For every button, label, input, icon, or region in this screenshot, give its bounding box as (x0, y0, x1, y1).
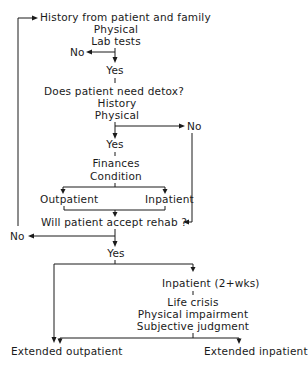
arrow-down-icon (237, 339, 242, 345)
criteria-condition: Condition (90, 170, 142, 182)
assessment-line-1: History from patient and family (40, 11, 211, 23)
extended-inpatient-label: Extended inpatient (204, 345, 308, 357)
treatment-decision-flowchart: History from patient and family Physical… (0, 0, 308, 371)
detox-outpatient-label: Outpatient (40, 193, 98, 205)
extended-care-split (58, 333, 242, 344)
detox-question-node: Does patient need detox? History Physica… (44, 85, 184, 121)
arrow-right-icon (32, 16, 38, 21)
criteria-life-crisis: Life crisis (167, 296, 218, 308)
rehab-yes-label: Yes (106, 247, 125, 259)
detox-inpatient-label: Inpatient (145, 193, 194, 205)
assessment-node: History from patient and family Physical… (40, 11, 211, 47)
arrow-left-icon (86, 50, 92, 55)
rehab-no-branch: No (10, 229, 118, 247)
criteria-physical-impairment: Physical impairment (138, 308, 249, 320)
arrow-down-icon (113, 57, 118, 63)
detox-no-label: No (187, 120, 202, 132)
assessment-no-branch: No (70, 46, 118, 63)
assessment-yes-label: Yes (105, 64, 124, 76)
assessment-line-2: Physical (94, 23, 138, 35)
detox-setting-criteria: Finances Condition (90, 157, 142, 182)
rehab-question: Will patient accept rehab ? (41, 216, 187, 228)
rehab-inpatient-node: Inpatient (2+wks) Life crisis Physical i… (137, 277, 260, 332)
detox-criteria-history: History (98, 97, 137, 109)
assessment-no-label: No (70, 46, 85, 58)
assessment-line-3: Lab tests (91, 35, 141, 47)
criteria-subjective-judgment: Subjective judgment (137, 320, 249, 332)
arrow-down-icon (58, 339, 63, 345)
criteria-finances: Finances (92, 157, 139, 169)
arrow-down-icon (52, 337, 57, 343)
extended-outpatient-label: Extended outpatient (11, 345, 123, 357)
rehab-no-label: No (10, 230, 25, 242)
detox-yes-label: Yes (105, 138, 124, 150)
arrow-down-icon (191, 267, 196, 272)
detox-criteria-physical: Physical (95, 109, 139, 121)
rehab-inpatient-label: Inpatient (2+wks) (162, 277, 260, 289)
loop-back-connector (18, 16, 38, 227)
arrow-left-icon (28, 234, 34, 239)
detox-question: Does patient need detox? (44, 85, 184, 97)
arrow-right-icon (179, 124, 185, 129)
